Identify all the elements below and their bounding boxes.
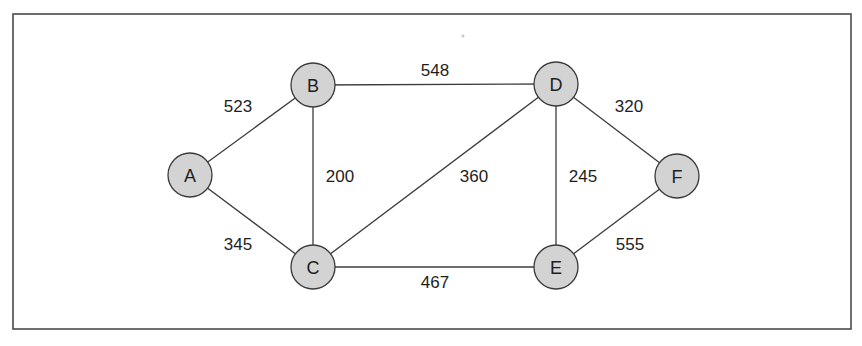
speck-artifact (462, 35, 465, 38)
node-A: A (168, 153, 212, 197)
edge-weight-E-F: 555 (616, 235, 644, 254)
edge-weight-A-C: 345 (224, 235, 252, 254)
edge-weight-C-D: 360 (460, 167, 488, 186)
node-label: F (672, 167, 683, 187)
node-C: C (291, 245, 335, 289)
edge-weight-D-E: 245 (569, 167, 597, 186)
node-label: B (307, 76, 319, 96)
graph-diagram: 523345548200360467245320555 ABCDEF (0, 0, 862, 346)
node-label: A (184, 166, 196, 186)
edge-weight-B-D: 548 (421, 61, 449, 80)
node-label: D (550, 75, 563, 95)
node-F: F (655, 154, 699, 198)
edge-weight-A-B: 523 (224, 97, 252, 116)
node-label: C (307, 258, 320, 278)
edge-weight-B-C: 200 (326, 167, 354, 186)
node-label: E (550, 258, 562, 278)
node-E: E (534, 245, 578, 289)
node-B: B (291, 63, 335, 107)
edge-weight-C-E: 467 (421, 273, 449, 292)
node-D: D (534, 62, 578, 106)
edge-weight-D-F: 320 (615, 97, 643, 116)
